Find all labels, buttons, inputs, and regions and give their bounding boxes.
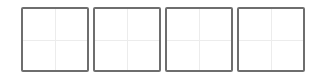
cell-value — [95, 9, 159, 70]
input-cell-1[interactable] — [21, 7, 89, 72]
input-cell-2[interactable] — [93, 7, 161, 72]
input-cell-4[interactable] — [237, 7, 305, 72]
cell-value — [23, 9, 87, 70]
cell-value — [167, 9, 231, 70]
input-cell-3[interactable] — [165, 7, 233, 72]
character-input-grid — [21, 7, 305, 72]
cell-value — [239, 9, 303, 70]
